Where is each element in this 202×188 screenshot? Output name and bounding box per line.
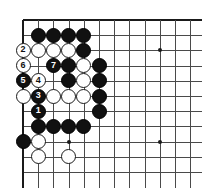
grid-line-vertical xyxy=(175,20,176,188)
go-board-diagram: 2675431 xyxy=(0,0,202,188)
numbered-stone-black-1: 1 xyxy=(31,104,46,119)
stone-white xyxy=(61,43,76,58)
stone-white xyxy=(46,89,61,104)
stone-move-number: 7 xyxy=(51,61,56,70)
stone-move-number: 6 xyxy=(20,61,25,70)
numbered-stone-white-4: 4 xyxy=(31,73,46,88)
grid-line-vertical xyxy=(160,20,161,188)
stone-move-number: 3 xyxy=(36,91,41,100)
grid-line-vertical xyxy=(129,20,130,188)
stone-black xyxy=(31,28,46,43)
stone-black xyxy=(76,119,91,134)
grid-line-vertical xyxy=(145,20,146,188)
stone-white xyxy=(31,43,46,58)
stone-move-number: 4 xyxy=(36,76,41,85)
stone-move-number: 5 xyxy=(20,76,25,85)
stone-black xyxy=(16,134,31,149)
numbered-stone-white-2: 2 xyxy=(16,43,31,58)
stone-white xyxy=(31,149,46,164)
star-point xyxy=(158,48,162,52)
stone-black xyxy=(92,58,107,73)
grid-line-vertical xyxy=(190,20,191,188)
stone-black xyxy=(46,28,61,43)
stone-black xyxy=(31,119,46,134)
stone-black xyxy=(61,58,76,73)
stone-black xyxy=(92,73,107,88)
grid-line-vertical xyxy=(114,20,115,188)
goban-grid: 2675431 xyxy=(0,0,202,188)
stone-black xyxy=(76,28,91,43)
numbered-stone-white-6: 6 xyxy=(16,58,31,73)
stone-black xyxy=(61,119,76,134)
stone-white xyxy=(16,89,31,104)
stone-white xyxy=(76,58,91,73)
numbered-stone-black-7: 7 xyxy=(46,58,61,73)
stone-black xyxy=(46,119,61,134)
stone-black xyxy=(92,89,107,104)
stone-white xyxy=(46,43,61,58)
stone-move-number: 2 xyxy=(20,45,25,54)
stone-black xyxy=(61,73,76,88)
star-point xyxy=(158,140,162,144)
numbered-stone-black-5: 5 xyxy=(16,73,31,88)
stone-black xyxy=(92,104,107,119)
stone-white xyxy=(76,73,91,88)
stone-white xyxy=(61,149,76,164)
star-point xyxy=(67,140,71,144)
numbered-stone-black-3: 3 xyxy=(31,89,46,104)
stone-white xyxy=(76,89,91,104)
stone-black xyxy=(76,43,91,58)
stone-white xyxy=(31,134,46,149)
stone-white xyxy=(61,89,76,104)
stone-move-number: 1 xyxy=(36,106,41,115)
stone-black xyxy=(61,28,76,43)
